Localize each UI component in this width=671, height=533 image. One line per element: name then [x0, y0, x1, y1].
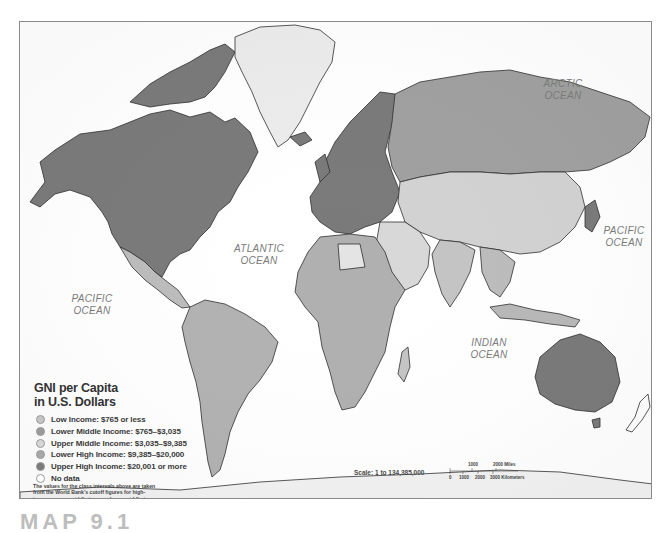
legend-item-lower-middle-income: Lower Middle Income: $765–$3,035	[36, 426, 187, 438]
swatch-lower-high-income	[36, 450, 45, 459]
swatch-low-income	[36, 415, 45, 424]
ocean-label-indian: INDIAN OCEAN	[459, 337, 519, 361]
scale-km-3000: 3000 Kilometers	[490, 475, 525, 480]
scale-km-0: 0	[449, 475, 452, 480]
legend-item-label: Upper Middle Income: $3,035–$9,385	[51, 439, 187, 448]
swatch-no-data	[36, 474, 45, 483]
scale-km-1000: 1000	[459, 475, 469, 480]
scale-miles-2000: 2000 Miles	[493, 462, 516, 467]
legend-item-lower-high-income: Lower High Income: $9,385–$20,000	[36, 449, 187, 461]
legend-item-label: No data	[51, 474, 80, 483]
legend-item-label: Low Income: $765 or less	[51, 415, 146, 424]
ocean-sub: OCEAN	[229, 255, 289, 267]
swatch-upper-middle-income	[36, 439, 45, 448]
ocean-sub: OCEAN	[533, 90, 593, 102]
ocean-name: PACIFIC	[62, 293, 122, 305]
legend-item-low-income: Low Income: $765 or less	[36, 414, 187, 426]
ocean-label-pacific-east: PACIFIC OCEAN	[594, 225, 652, 249]
ocean-name: ATLANTIC	[229, 243, 289, 255]
legend-title: GNI per Capita in U.S. Dollars	[34, 381, 118, 409]
legend-note: The values for the class intervals above…	[33, 483, 163, 499]
legend-item-upper-middle-income: Upper Middle Income: $3,035–$9,385	[36, 437, 187, 449]
legend-item-label: Lower Middle Income: $765–$3,035	[51, 427, 181, 436]
ocean-sub: OCEAN	[62, 305, 122, 317]
scale-miles-1000: 1000	[468, 462, 478, 467]
map-number-heading: MAP 9.1	[20, 511, 133, 533]
legend-title-line2: in U.S. Dollars	[34, 395, 118, 409]
ocean-sub: OCEAN	[594, 237, 652, 249]
scale-km-2000: 2000	[475, 475, 485, 480]
ocean-label-pacific-west: PACIFIC OCEAN	[62, 293, 122, 317]
ocean-sub: OCEAN	[459, 349, 519, 361]
ocean-name: INDIAN	[459, 337, 519, 349]
swatch-lower-middle-income	[36, 427, 45, 436]
scale-ratio: Scale: 1 to 134,385,000	[354, 469, 424, 476]
legend-title-line1: GNI per Capita	[34, 381, 118, 395]
legend-item-label: Upper High Income: $20,001 or more	[51, 462, 187, 471]
legend-item-upper-high-income: Upper High Income: $20,001 or more	[36, 461, 187, 473]
ocean-name: ARCTIC	[533, 78, 593, 90]
legend: GNI per Capita in U.S. Dollars Low Incom…	[20, 371, 220, 499]
ocean-label-arctic: ARCTIC OCEAN	[533, 78, 593, 102]
ocean-name: PACIFIC	[594, 225, 652, 237]
ocean-label-atlantic: ATLANTIC OCEAN	[229, 243, 289, 267]
legend-item-label: Lower High Income: $9,385–$20,000	[51, 450, 184, 459]
swatch-upper-high-income	[36, 462, 45, 471]
legend-items: Low Income: $765 or less Lower Middle In…	[36, 414, 187, 484]
map-frame: ARCTIC OCEAN ATLANTIC OCEAN PACIFIC OCEA…	[19, 21, 652, 499]
scale-bar: 1000 2000 Miles 0 1000 2000 3000 Kilomet…	[448, 462, 538, 482]
